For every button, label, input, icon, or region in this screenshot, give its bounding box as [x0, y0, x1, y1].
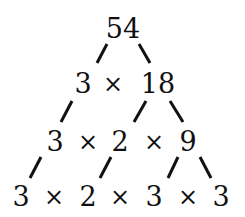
factor-tree-diagram: 54 3 × 18 3 × 2 × 9 3 × 2 × 3 × 3: [0, 0, 245, 217]
node-18: 18: [141, 70, 175, 97]
times-operator: ×: [103, 72, 123, 96]
edge-9-to-3-left: [168, 157, 178, 178]
node-54: 54: [106, 15, 140, 42]
times-operator: ×: [110, 185, 130, 209]
edge-3-to-3-lower: [30, 157, 41, 178]
node-3: 3: [12, 183, 29, 210]
times-operator: ×: [44, 185, 64, 209]
edge-3-to-3: [61, 101, 72, 122]
node-2: 2: [79, 183, 96, 210]
edge-18-to-2: [134, 101, 146, 122]
times-operator: ×: [178, 185, 198, 209]
node-9: 9: [179, 128, 196, 155]
edge-9-to-3-right: [200, 157, 211, 178]
node-3: 3: [46, 128, 63, 155]
node-3: 3: [145, 183, 162, 210]
edge-54-to-3: [97, 44, 107, 63]
edge-18-to-9: [170, 101, 183, 122]
node-2: 2: [111, 128, 128, 155]
node-3: 3: [74, 70, 91, 97]
node-3: 3: [212, 183, 229, 210]
edge-54-to-18: [139, 44, 150, 63]
times-operator: ×: [144, 130, 164, 154]
times-operator: ×: [78, 130, 98, 154]
edge-2-to-2: [100, 157, 111, 178]
